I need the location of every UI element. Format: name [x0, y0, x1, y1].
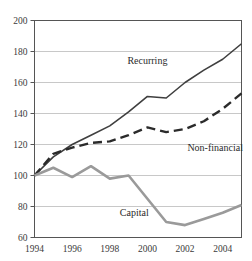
x-tick-label-2004: 2004 — [213, 244, 232, 254]
x-tick-label-1998: 1998 — [100, 244, 119, 254]
series-label-non-financial: Non-financial — [187, 142, 243, 153]
y-tick-label-200: 200 — [13, 16, 28, 26]
line-chart: 6080100120140160180200 19941996199820002… — [0, 0, 252, 261]
y-tick-label-120: 120 — [13, 140, 28, 150]
y-tick-label-180: 180 — [13, 47, 28, 57]
x-tick-label-2002: 2002 — [176, 244, 195, 254]
x-tick-label-1996: 1996 — [63, 244, 82, 254]
x-tick-label-1994: 1994 — [25, 244, 44, 254]
chart-container: 6080100120140160180200 19941996199820002… — [0, 0, 252, 261]
y-tick-label-160: 160 — [13, 78, 28, 88]
y-tick-label-60: 60 — [18, 233, 28, 243]
chart-background — [0, 0, 252, 261]
series-label-recurring: Recurring — [127, 55, 167, 66]
y-tick-label-100: 100 — [13, 171, 28, 181]
x-tick-label-2000: 2000 — [138, 244, 157, 254]
y-tick-label-140: 140 — [13, 109, 28, 119]
series-label-capital: Capital — [120, 207, 149, 218]
y-tick-label-80: 80 — [18, 202, 28, 212]
